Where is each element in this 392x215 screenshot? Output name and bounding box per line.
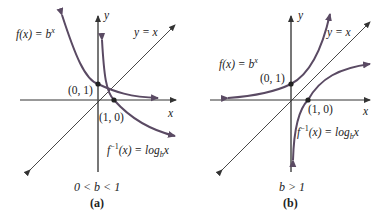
point-0-1-a (95, 81, 100, 86)
condition-a: 0 < b < 1 (74, 180, 120, 195)
point-1-0-b (305, 97, 310, 102)
x-axis-label-a: x (168, 108, 173, 120)
f-label-b: f(x) = bx (219, 57, 258, 70)
x-axis-label-b: x (363, 106, 368, 118)
point-label-1-0-a: (1, 0) (99, 112, 124, 124)
point-1-0-a (111, 97, 116, 102)
point-label-1-0-b: (1, 0) (308, 104, 333, 116)
condition-b: b > 1 (279, 180, 305, 195)
y-axis-label-b: y (298, 10, 303, 22)
finv-label-a: f−1(x) = logbx (107, 143, 169, 159)
exp-curve-b (228, 14, 330, 98)
finv-label-b: f−1(x) = logbx (297, 125, 359, 141)
caption-b: (b) (283, 196, 298, 211)
point-0-1-b (288, 81, 293, 86)
f-label-a: f(x) = bx (16, 27, 55, 40)
point-label-0-1-b: (0, 1) (260, 73, 285, 85)
line-label-a: y = x (134, 27, 158, 39)
point-label-0-1-a: (0, 1) (68, 85, 93, 97)
line-label-b: y = x (327, 27, 351, 39)
caption-a: (a) (90, 196, 104, 211)
y-axis-label-a: y (104, 10, 109, 22)
